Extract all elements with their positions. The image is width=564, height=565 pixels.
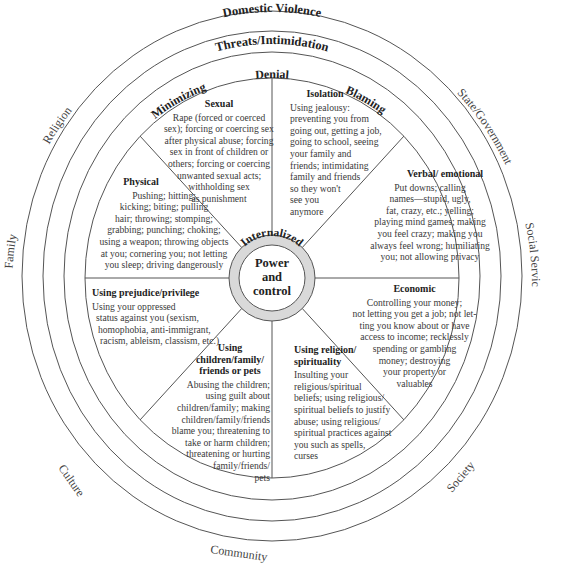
svg-text:Family: Family xyxy=(1,233,19,269)
domestic-violence-label: Domestic Violence xyxy=(221,1,323,20)
segment-physical: Physical Pushing; hitting;kicking; bitin… xyxy=(88,176,240,271)
threats-label: Threats/Intimidation xyxy=(214,33,331,55)
segment-prejudice: Using prejudice/privilege Using your opp… xyxy=(92,287,242,347)
svg-text:Denial: Denial xyxy=(255,67,291,82)
segment-religion: Using religion/ spirituality Insulting y… xyxy=(294,344,414,462)
segment-verbal-emotional: Verbal/ emotional Put downs; callingname… xyxy=(360,168,500,263)
svg-text:Domestic Violence: Domestic Violence xyxy=(221,1,323,20)
community-label: Community xyxy=(210,542,269,564)
denial-label: Denial xyxy=(255,67,291,82)
svg-text:Threats/Intimidation: Threats/Intimidation xyxy=(214,33,331,55)
family-label: Family xyxy=(1,233,19,269)
segment-children: Using children/family/ friends or pets A… xyxy=(162,342,270,483)
center-label: Power and control xyxy=(236,256,308,298)
culture-label: Culture xyxy=(56,462,88,500)
svg-text:State/Government: State/Government xyxy=(455,86,516,167)
state-government-label: State/Government xyxy=(455,86,516,167)
